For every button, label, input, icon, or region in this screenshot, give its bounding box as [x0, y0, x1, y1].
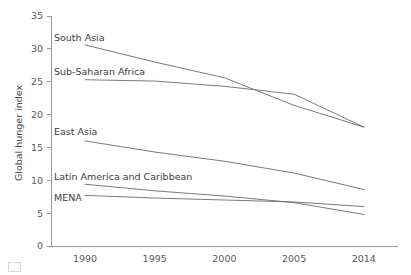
series-labels-group: South AsiaSub-Saharan AfricaEast AsiaLat… — [54, 32, 192, 203]
x-tick-label: 1995 — [143, 253, 167, 264]
y-tick-label: 15 — [31, 142, 43, 153]
series-label-sub-saharan-africa: Sub-Saharan Africa — [54, 66, 145, 77]
x-tick-label: 2005 — [282, 253, 306, 264]
y-tick-label: 30 — [31, 43, 43, 54]
y-tick-label: 10 — [31, 175, 43, 186]
y-tick-label: 0 — [37, 240, 43, 251]
series-line-mena — [85, 195, 364, 206]
series-label-latin-america-and-caribbean: Latin America and Caribbean — [54, 171, 192, 182]
y-tick-label: 5 — [37, 208, 43, 219]
chart-canvas: 05101520253035 19901995200020052014 Sout… — [0, 0, 411, 275]
y-axis-tick-labels: 05101520253035 — [31, 10, 43, 251]
x-tick-label: 2000 — [212, 253, 236, 264]
x-tick-label: 2014 — [352, 253, 376, 264]
y-tick-label: 25 — [31, 76, 43, 87]
series-line-east-asia — [85, 141, 364, 190]
series-line-latin-america-and-caribbean — [85, 184, 364, 214]
x-axis-tick-labels: 19901995200020052014 — [73, 253, 376, 264]
y-tick-label: 35 — [31, 10, 43, 21]
series-label-east-asia: East Asia — [54, 126, 97, 137]
y-axis-ticks — [47, 16, 51, 246]
x-tick-label: 1990 — [73, 253, 97, 264]
series-label-south-asia: South Asia — [54, 32, 105, 43]
y-tick-label: 20 — [31, 109, 43, 120]
footer-mark — [8, 262, 21, 272]
line-chart: 05101520253035 19901995200020052014 Sout… — [0, 0, 411, 275]
series-label-mena: MENA — [54, 192, 82, 203]
series-line-sub-saharan-africa — [85, 80, 364, 127]
y-axis-title: Global hunger index — [13, 85, 24, 182]
